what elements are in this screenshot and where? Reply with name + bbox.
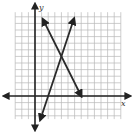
decreasing-line [43,19,81,96]
coordinate-graph: x y [0,0,134,134]
x-axis-label: x [121,99,126,108]
y-axis-label: y [38,3,44,12]
grid-lines [15,12,121,119]
